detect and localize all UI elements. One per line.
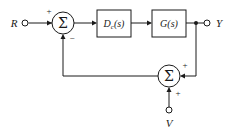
arrowhead-into-disturbance-sum-right [180,74,185,79]
plant-block-label: G(s) [160,18,178,30]
error-sum-minus-sign: − [69,33,74,43]
block-diagram-svg: Dc(s) G(s) Σ + − Σ + + R [0,0,231,132]
disturbance-label: V [166,117,174,129]
disturbance-terminal[interactable]: V [166,107,174,129]
controller-block[interactable]: Dc(s) [97,10,131,37]
disturbance-terminal-circle[interactable] [166,107,172,113]
reference-terminal-circle[interactable] [22,20,28,26]
arrowhead-into-plant [147,21,152,26]
arrowhead-into-controller [92,21,97,26]
output-terminal[interactable]: Y [204,17,224,29]
error-sum-plus-sign: + [46,6,51,16]
disturbance-sum-plus-sign-right: + [182,60,187,70]
output-label: Y [216,17,224,29]
arrowhead-into-error-sum [47,21,52,26]
reference-label: R [10,17,18,29]
error-sum-sigma-glyph: Σ [58,15,68,31]
arrowhead-into-disturbance-sum-bottom [167,87,172,92]
plant-block[interactable]: G(s) [152,10,186,37]
reference-terminal[interactable]: R [10,17,28,29]
output-terminal-circle[interactable] [204,20,210,26]
disturbance-summing-junction[interactable]: Σ + + [158,60,188,98]
disturbance-sum-sigma-glyph: Σ [164,68,174,84]
output-tap-dot [194,21,198,25]
block-diagram-canvas: Dc(s) G(s) Σ + − Σ + + R [0,0,231,132]
arrowhead-into-error-sum-bottom [61,34,66,39]
disturbance-sum-plus-sign-bottom: + [175,88,180,98]
feedback-to-error-sum-wire [63,36,158,76]
error-summing-junction[interactable]: Σ + − [46,6,74,43]
